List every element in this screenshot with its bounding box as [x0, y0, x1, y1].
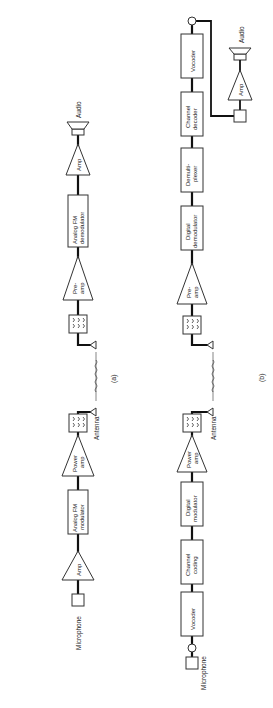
svg-text:Microphone: Microphone	[200, 656, 208, 690]
system-b: Vocoder Channel decoder Demulti- plexer …	[177, 17, 266, 690]
svg-text:Vocoder: Vocoder	[190, 608, 196, 630]
svg-text:Antenna: Antenna	[93, 416, 100, 440]
svg-text:Pre-: Pre-	[186, 287, 192, 298]
audio-label: Audio	[75, 101, 82, 118]
filter-icon	[69, 414, 87, 432]
svg-text:Channel: Channel	[185, 106, 191, 128]
svg-text:Power: Power	[186, 451, 192, 468]
svg-text:Channel: Channel	[185, 554, 191, 576]
speaker-icon	[229, 48, 251, 60]
filter-icon	[183, 316, 201, 334]
svg-text:plexer: plexer	[192, 166, 198, 182]
svg-text:Amp: Amp	[238, 83, 244, 96]
fm-modulator-box	[68, 490, 88, 534]
svg-text:amp: amp	[193, 452, 199, 464]
svg-text:(a): (a)	[110, 374, 118, 383]
svg-text:decoder: decoder	[192, 108, 198, 130]
svg-text:Analog FM: Analog FM	[72, 216, 78, 244]
microphone-icon	[186, 657, 198, 669]
svg-text:Pre-: Pre-	[72, 283, 78, 294]
preamp-triangle	[63, 256, 93, 300]
svg-text:Antenna: Antenna	[210, 416, 217, 440]
antenna-icon	[90, 341, 96, 349]
antenna-icon	[207, 408, 213, 416]
power-amp-triangle	[62, 435, 94, 476]
svg-text:Digital: Digital	[185, 499, 191, 516]
svg-text:amp: amp	[79, 456, 85, 468]
svg-text:demodulator: demodulator	[79, 212, 85, 244]
svg-text:Audio: Audio	[238, 26, 245, 43]
svg-text:modulator: modulator	[79, 504, 85, 530]
svg-text:(b): (b)	[258, 373, 266, 382]
filter-icon	[183, 414, 201, 432]
connector-icon	[188, 17, 196, 25]
svg-text:amp: amp	[79, 282, 85, 294]
svg-text:coding: coding	[192, 556, 198, 574]
svg-text:Digital: Digital	[185, 223, 191, 240]
antenna-icon	[207, 341, 213, 349]
block-diagram: Audio Amp Analog FM demodulator Pre- amp…	[0, 0, 273, 708]
svg-text:Microphone: Microphone	[75, 616, 83, 650]
microphone-icon	[72, 594, 84, 606]
svg-text:Vocoder: Vocoder	[190, 50, 196, 72]
fm-demodulator-box	[68, 195, 88, 247]
svg-text:demodulator: demodulator	[192, 215, 198, 248]
svg-text:Amp: Amp	[76, 158, 82, 171]
speaker-icon	[67, 122, 89, 135]
svg-text:Analog FM: Analog FM	[72, 504, 78, 532]
preamp-triangle	[177, 263, 207, 304]
power-amp-triangle	[177, 435, 207, 472]
svg-text:modulator: modulator	[192, 495, 198, 522]
svg-text:Amp: Amp	[76, 563, 82, 576]
system-a: Audio Amp Analog FM demodulator Pre- amp…	[62, 101, 118, 650]
filter-icon	[69, 315, 87, 333]
svg-text:Power: Power	[72, 455, 78, 472]
connector-icon	[188, 644, 196, 652]
antenna-icon	[90, 408, 96, 416]
svg-text:Demulti-: Demulti-	[185, 164, 191, 186]
svg-text:amp: amp	[193, 286, 199, 298]
